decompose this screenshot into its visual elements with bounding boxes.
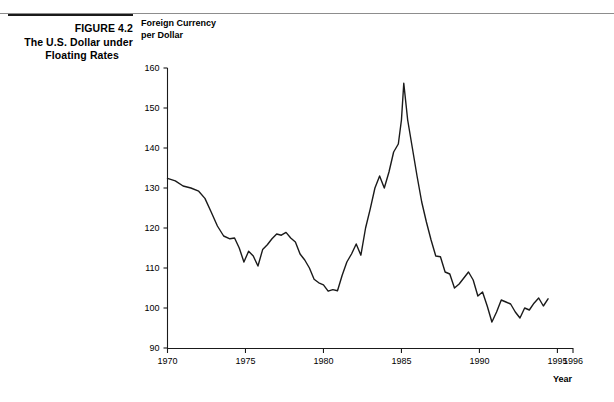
y-tick-label: 150 [144,103,159,113]
x-tick-label: 1985 [391,356,411,366]
y-axis-ticks: 90100110120130140150160 [144,63,167,353]
chart-container: Foreign Currency per Dollar Year 9010011… [0,0,614,402]
y-tick-label: 140 [144,143,159,153]
x-tick-label: 1975 [235,356,255,366]
y-tick-label: 90 [149,343,159,353]
y-tick-label: 120 [144,223,159,233]
y-tick-label: 160 [144,63,159,73]
line-chart-plot: 90100110120130140150160 1970197519801985… [0,0,614,402]
data-series-line [168,83,549,322]
y-tick-label: 100 [144,303,159,313]
y-tick-label: 110 [145,263,159,273]
x-tick-label: 1990 [469,356,489,366]
x-tick-label: 1970 [157,356,177,366]
y-tick-label: 130 [144,183,159,193]
x-tick-label: 1980 [313,356,333,366]
x-tick-label: 1996 [563,356,583,366]
x-axis-ticks: 1970197519801985199019951996 [157,348,583,366]
